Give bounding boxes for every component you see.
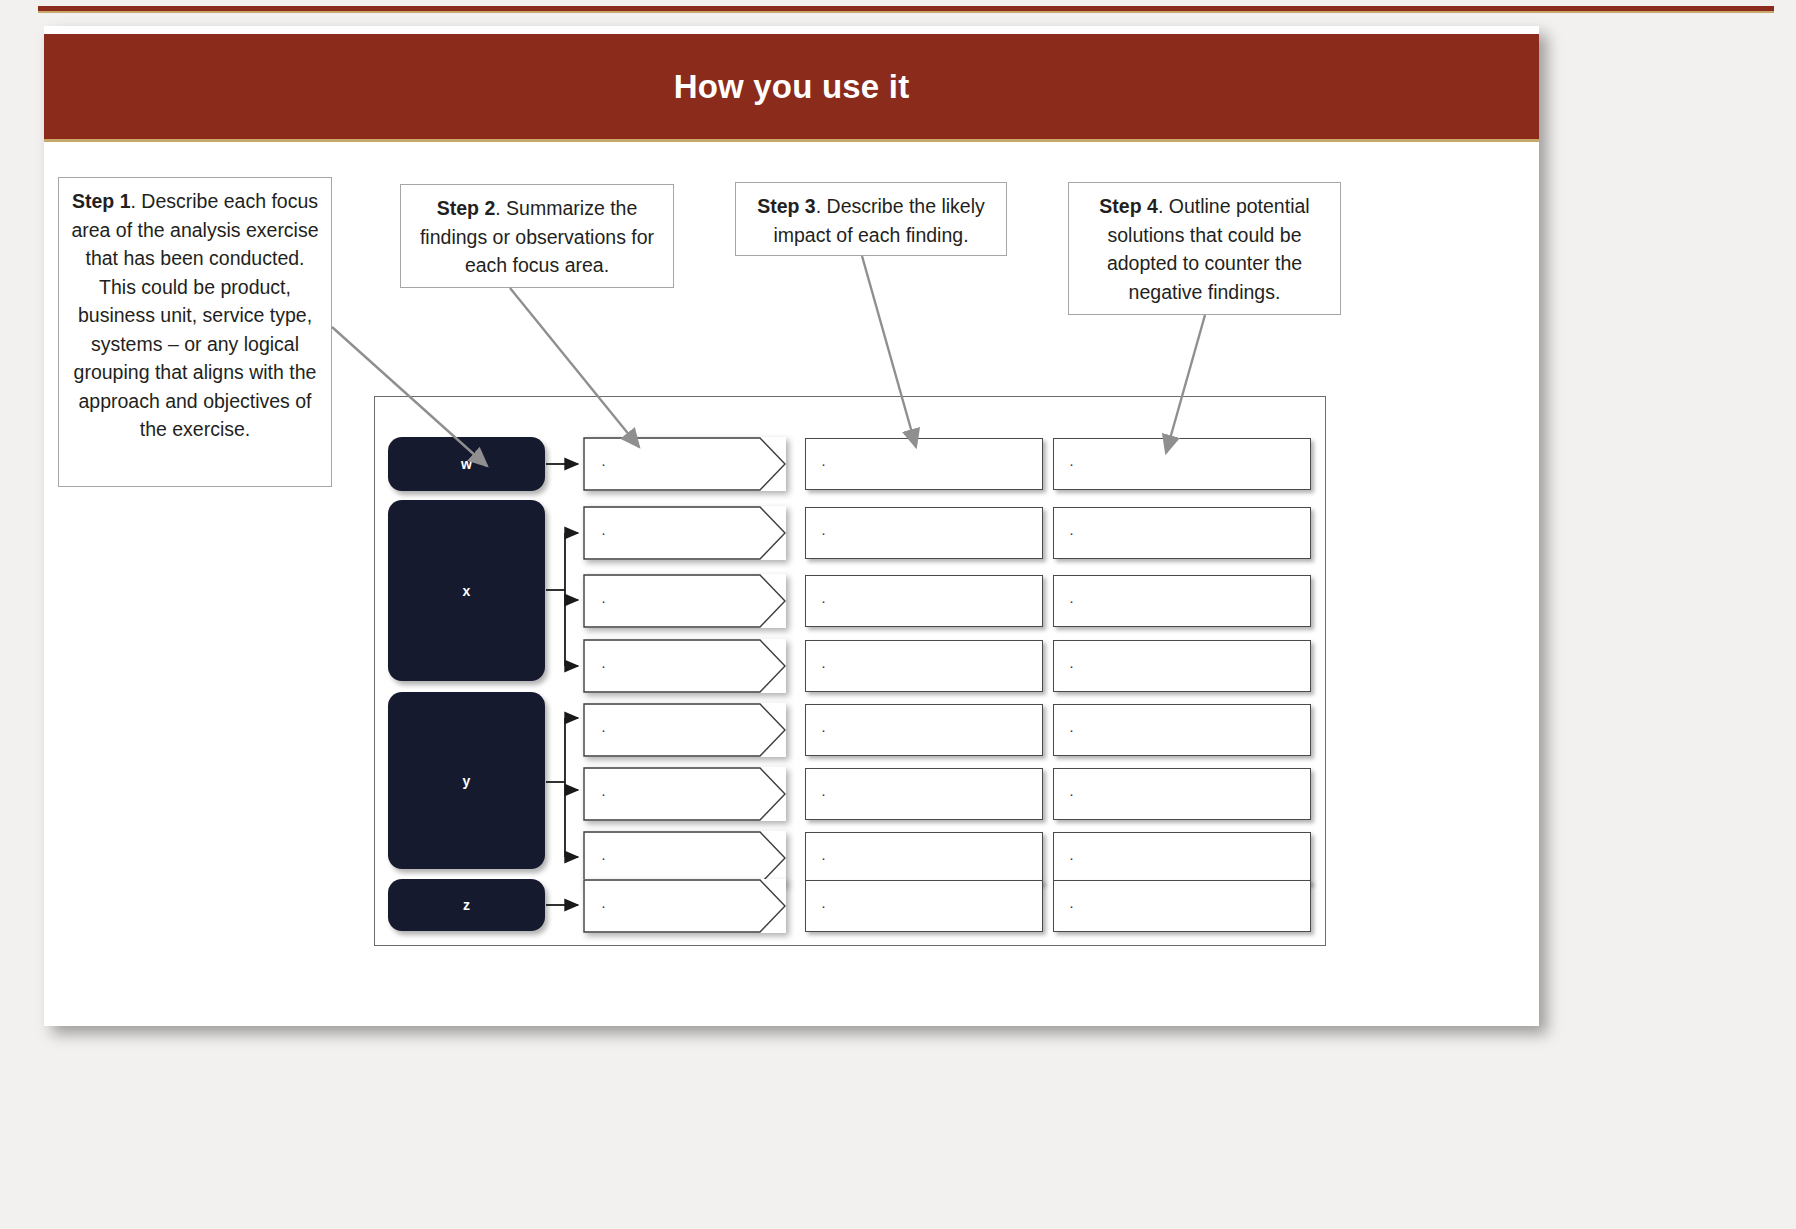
- callout-step-3-label: Step 3: [757, 195, 816, 217]
- solution-cell-row-3[interactable]: [1053, 575, 1311, 627]
- slide-header-banner: How you use it: [44, 34, 1539, 139]
- solution-cell-row-1[interactable]: [1053, 438, 1311, 490]
- solution-cell-row-4[interactable]: [1053, 640, 1311, 692]
- impact-bullet-row-8: ·: [821, 898, 826, 913]
- impact-cell-row-4[interactable]: [805, 640, 1043, 692]
- solution-cell-row-2[interactable]: [1053, 507, 1311, 559]
- findings-bullet-row-2: ·: [601, 525, 606, 540]
- findings-cell-row-3[interactable]: [583, 574, 786, 628]
- findings-cell-row-6[interactable]: [583, 767, 786, 821]
- page-top-rule-accent: [38, 11, 1774, 13]
- focus-area-label-w: w: [461, 456, 472, 472]
- header-accent-line: [44, 139, 1539, 142]
- findings-bullet-row-6: ·: [601, 786, 606, 801]
- slide-canvas: How you use it Step 1. Describe each foc…: [0, 0, 1796, 1229]
- findings-cell-row-5[interactable]: [583, 703, 786, 757]
- findings-bullet-row-4: ·: [601, 658, 606, 673]
- focus-area-label-x: x: [463, 583, 471, 599]
- impact-bullet-row-3: ·: [821, 593, 826, 608]
- findings-bullet-row-8: ·: [601, 898, 606, 913]
- page-title: How you use it: [674, 68, 910, 106]
- solution-cell-row-6[interactable]: [1053, 768, 1311, 820]
- focus-area-block-z[interactable]: z: [388, 879, 545, 931]
- focus-area-label-z: z: [463, 897, 470, 913]
- callout-step-2-label: Step 2: [437, 197, 496, 219]
- solution-bullet-row-6: ·: [1069, 786, 1074, 801]
- callout-step-2: Step 2. Summarize the findings or observ…: [400, 184, 674, 288]
- solution-cell-row-7[interactable]: [1053, 832, 1311, 884]
- findings-cell-row-2[interactable]: [583, 506, 786, 560]
- solution-bullet-row-5: ·: [1069, 722, 1074, 737]
- findings-bullet-row-1: ·: [601, 456, 606, 471]
- callout-step-1-label: Step 1: [72, 190, 131, 212]
- callout-step-4-label: Step 4: [1099, 195, 1158, 217]
- impact-cell-row-5[interactable]: [805, 704, 1043, 756]
- impact-cell-row-7[interactable]: [805, 832, 1043, 884]
- solution-cell-row-5[interactable]: [1053, 704, 1311, 756]
- solution-bullet-row-8: ·: [1069, 898, 1074, 913]
- findings-bullet-row-5: ·: [601, 722, 606, 737]
- findings-cell-row-1[interactable]: [583, 437, 786, 491]
- impact-bullet-row-2: ·: [821, 525, 826, 540]
- callout-step-3: Step 3. Describe the likely impact of ea…: [735, 182, 1007, 256]
- findings-cell-row-4[interactable]: [583, 639, 786, 693]
- impact-bullet-row-6: ·: [821, 786, 826, 801]
- impact-cell-row-1[interactable]: [805, 438, 1043, 490]
- focus-area-block-w[interactable]: w: [388, 437, 545, 491]
- findings-cell-row-7[interactable]: [583, 831, 786, 885]
- solution-bullet-row-1: ·: [1069, 456, 1074, 471]
- impact-cell-row-2[interactable]: [805, 507, 1043, 559]
- callout-step-4: Step 4. Outline potential solutions that…: [1068, 182, 1341, 315]
- solution-cell-row-8[interactable]: [1053, 880, 1311, 932]
- findings-bullet-row-3: ·: [601, 593, 606, 608]
- focus-area-block-x[interactable]: x: [388, 500, 545, 681]
- solution-bullet-row-2: ·: [1069, 525, 1074, 540]
- impact-cell-row-8[interactable]: [805, 880, 1043, 932]
- solution-bullet-row-4: ·: [1069, 658, 1074, 673]
- solution-bullet-row-7: ·: [1069, 850, 1074, 865]
- findings-bullet-row-7: ·: [601, 850, 606, 865]
- findings-cell-row-8[interactable]: [583, 879, 786, 933]
- callout-step-1: Step 1. Describe each focus area of the …: [58, 177, 332, 487]
- impact-bullet-row-1: ·: [821, 456, 826, 471]
- impact-cell-row-3[interactable]: [805, 575, 1043, 627]
- focus-area-block-y[interactable]: y: [388, 692, 545, 869]
- callout-step-1-text: . Describe each focus area of the analys…: [71, 190, 318, 440]
- impact-cell-row-6[interactable]: [805, 768, 1043, 820]
- impact-bullet-row-5: ·: [821, 722, 826, 737]
- solution-bullet-row-3: ·: [1069, 593, 1074, 608]
- focus-area-label-y: y: [463, 773, 471, 789]
- impact-bullet-row-7: ·: [821, 850, 826, 865]
- impact-bullet-row-4: ·: [821, 658, 826, 673]
